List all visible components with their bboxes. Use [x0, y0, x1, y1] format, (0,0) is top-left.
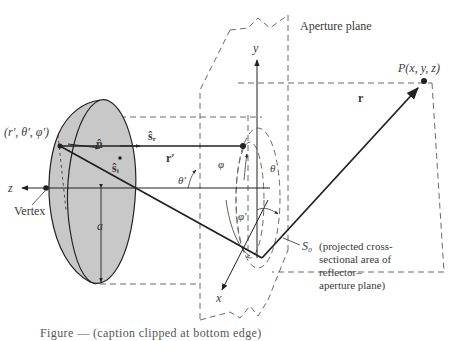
- reflector-point-label: (r′, θ′, φ′): [4, 125, 49, 139]
- s0-desc-3: reflector–: [319, 266, 362, 278]
- vertex-label: Vertex: [14, 204, 45, 218]
- theta-prime-label: θ′: [178, 174, 186, 186]
- reflector-dish: [49, 100, 136, 284]
- s0-desc-1: (projected cross-: [319, 240, 393, 253]
- phi-label: φ: [218, 158, 224, 170]
- r-vector: [262, 88, 418, 258]
- vertex-point: [43, 185, 49, 191]
- reflected-dir-label: ŝᵣ: [148, 129, 156, 143]
- figure-caption-clipped: Figure — (caption clipped at bottom edge…: [40, 326, 262, 341]
- reflector-point: [58, 144, 63, 149]
- r-prime-label: r′: [166, 151, 175, 165]
- s0-symbol: S₀: [302, 239, 312, 253]
- radius-a-label: a: [97, 219, 103, 233]
- theta-label: θ: [270, 162, 276, 174]
- z-axis-label: z: [7, 181, 13, 195]
- r-label: r: [358, 91, 364, 105]
- angle-arcs: [188, 154, 278, 256]
- point-p-label: P(x, y, z): [397, 61, 440, 75]
- incident-dir-label: ŝᵢ: [112, 161, 119, 175]
- normal-label: n̂: [96, 137, 103, 151]
- x-axis-label: x: [215, 291, 222, 305]
- projection-guides: [100, 83, 444, 284]
- y-axis-label: y: [252, 41, 259, 55]
- phi-prime-label: φ′: [238, 210, 247, 222]
- point-p: [421, 78, 427, 84]
- s0-desc-2: sectional area of: [319, 253, 391, 265]
- s0-desc-4: aperture plane): [319, 279, 386, 292]
- aperture-plane-label: Aperture plane: [300, 19, 372, 33]
